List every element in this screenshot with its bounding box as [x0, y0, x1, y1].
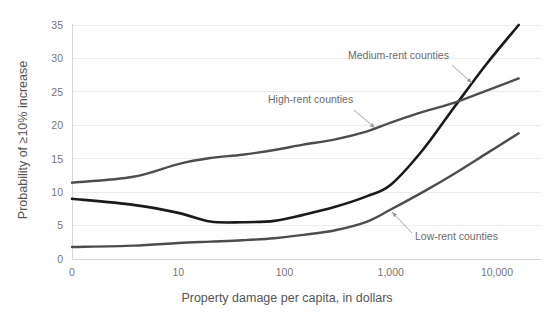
x-axis-tick-labels: 0101001,00010,000 [69, 266, 513, 278]
y-axis-tick-label: 5 [57, 219, 63, 231]
gridlines-group [72, 24, 541, 259]
y-axis-tick-label: 10 [51, 186, 63, 198]
x-axis-title: Property damage per capita, in dollars [181, 291, 392, 305]
y-axis-tick-label: 15 [51, 153, 63, 165]
series-line [72, 25, 519, 223]
x-axis-tick-label: 1,000 [378, 266, 404, 278]
x-axis-tick-label: 0 [69, 266, 75, 278]
chart-container: 05101520253035 0101001,00010,000 Medium-… [0, 0, 548, 317]
series-annotation-label: High-rent counties [268, 93, 353, 105]
series-annotation-label: Low-rent counties [415, 230, 498, 242]
y-axis-tick-label: 25 [51, 86, 63, 98]
y-axis-tick-label: 30 [51, 52, 63, 64]
y-axis-tick-label: 35 [51, 19, 63, 31]
x-axis-tick-label: 10 [172, 266, 184, 278]
y-axis-tick-labels: 05101520253035 [51, 19, 63, 265]
y-axis-title: Probability of ≥10% increase [16, 61, 30, 219]
x-axis-tick-label: 10,000 [481, 266, 513, 278]
x-axis-tick-label: 100 [276, 266, 294, 278]
series-annotation-label: Medium-rent counties [348, 49, 449, 61]
y-axis-tick-label: 0 [57, 253, 63, 265]
y-axis-tick-label: 20 [51, 119, 63, 131]
line-chart: 05101520253035 0101001,00010,000 Medium-… [0, 0, 548, 317]
